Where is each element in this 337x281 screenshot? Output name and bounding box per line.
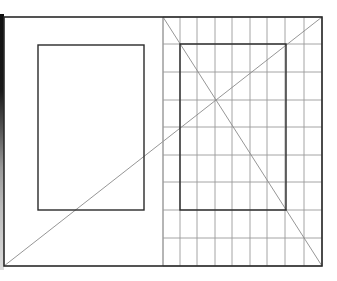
page-diagonal (163, 17, 322, 266)
left-page-text-block (38, 45, 144, 210)
layout-diagram (0, 0, 337, 281)
